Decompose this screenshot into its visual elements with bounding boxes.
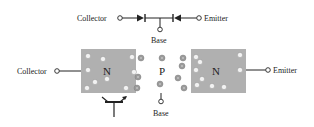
electron: [84, 85, 89, 90]
electron: [237, 67, 242, 72]
base-label: Base: [153, 109, 169, 118]
diode-base-label: Base: [151, 36, 167, 45]
semiconductor-structure: N P N Collector Emitter Base: [17, 49, 297, 118]
diode-base-terminal: [158, 27, 163, 32]
electron: [129, 54, 134, 59]
electron: [197, 59, 202, 64]
npn-transistor-symbol: [102, 96, 127, 117]
electron: [92, 79, 97, 84]
electron: [193, 54, 198, 59]
transistor-diagram: Collector Emitter Base N P N Collector E…: [0, 0, 314, 127]
electron: [104, 76, 109, 81]
diode-collector-label: Collector: [77, 14, 107, 23]
hole-center: [136, 87, 137, 88]
diode-model: Collector Emitter Base: [77, 14, 228, 45]
emitter-terminal: [266, 68, 271, 73]
hole-center: [159, 83, 160, 84]
diode-arrow-icon: [137, 15, 144, 22]
region-label-collector: N: [103, 65, 111, 77]
electron: [237, 52, 242, 57]
diode-emitter-terminal: [197, 16, 202, 21]
electron: [85, 53, 90, 58]
emitter-label: Emitter: [273, 66, 297, 75]
electron: [209, 83, 214, 88]
hole-center: [161, 57, 162, 58]
electron: [193, 67, 198, 72]
diode-emitter-label: Emitter: [204, 14, 228, 23]
base-terminal: [159, 99, 164, 104]
electron: [131, 69, 136, 74]
region-label-base: P: [159, 65, 165, 77]
hole-center: [182, 57, 183, 58]
hole-center: [137, 76, 138, 77]
electron: [100, 56, 105, 61]
electron: [123, 85, 128, 90]
region-label-emitter: N: [212, 65, 220, 77]
electron: [221, 84, 226, 89]
hole-center: [140, 57, 141, 58]
diode-collector-terminal: [118, 16, 123, 21]
electron: [85, 67, 90, 72]
electron: [194, 82, 199, 87]
hole-center: [183, 87, 184, 88]
diode-arrow-icon: [174, 15, 181, 22]
collector-label: Collector: [17, 67, 47, 76]
hole-center: [177, 77, 178, 78]
electron: [199, 76, 204, 81]
collector-terminal: [55, 69, 60, 74]
hole-center: [181, 65, 182, 66]
